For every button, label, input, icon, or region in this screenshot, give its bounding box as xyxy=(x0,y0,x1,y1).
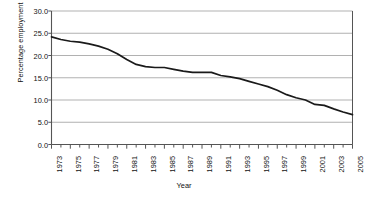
x-axis-tick-label: 1985 xyxy=(168,156,177,172)
x-axis-tick-label: 1981 xyxy=(130,156,139,172)
x-axis-tick-label: 1973 xyxy=(55,156,64,172)
x-axis-tick-label: 1991 xyxy=(224,156,233,172)
x-axis-tick-label: 1975 xyxy=(74,156,83,172)
x-axis-tick-label: 1989 xyxy=(205,156,214,172)
x-axis-tick-label: 2003 xyxy=(337,156,346,172)
data-series-line xyxy=(52,37,353,115)
x-axis-tick-label: 1983 xyxy=(149,156,158,172)
x-axis-tick-label: 1979 xyxy=(111,156,120,172)
x-axis-tick-label: 2001 xyxy=(318,156,327,172)
x-axis-tick-label: 2005 xyxy=(356,156,365,172)
x-axis-title: Year xyxy=(0,181,368,190)
x-axis-tick-label: 1999 xyxy=(299,156,308,172)
x-axis-tick-label: 1993 xyxy=(243,156,252,172)
x-axis-tick-label: 1987 xyxy=(186,156,195,172)
chart-container: Percentage employment 30.025.020.015.010… xyxy=(0,0,368,201)
x-axis-tick-label: 1995 xyxy=(262,156,271,172)
x-axis-tick-label: 1977 xyxy=(92,156,101,172)
x-axis-tick-label: 1997 xyxy=(280,156,289,172)
